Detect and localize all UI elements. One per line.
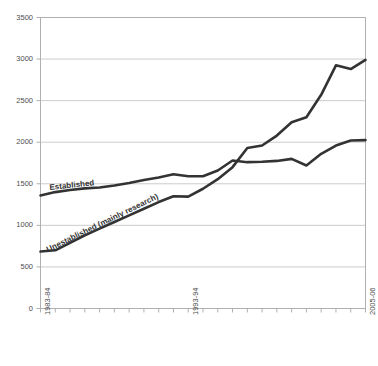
y-tick-label: 3000 bbox=[3, 55, 33, 63]
line-chart: 0500100015002000250030003500 1983-841993… bbox=[0, 0, 378, 366]
x-tick-label: 1993-94 bbox=[192, 287, 200, 315]
plot-frame bbox=[41, 18, 366, 309]
y-tick-label: 2000 bbox=[3, 138, 33, 146]
plot-area-border bbox=[41, 18, 366, 309]
y-tick-label: 500 bbox=[3, 263, 33, 271]
y-tick-label: 1000 bbox=[3, 221, 33, 229]
y-axis-ticks bbox=[37, 18, 41, 309]
x-tick-label: 2005-06 bbox=[369, 287, 377, 315]
y-tick-label: 3500 bbox=[3, 14, 33, 22]
x-tick-label: 1983-84 bbox=[44, 287, 52, 315]
y-tick-label: 2500 bbox=[3, 97, 33, 105]
data-series-lines bbox=[41, 60, 366, 252]
x-axis-ticks bbox=[41, 309, 366, 313]
y-tick-label: 1500 bbox=[3, 180, 33, 188]
y-tick-label: 0 bbox=[3, 305, 33, 313]
